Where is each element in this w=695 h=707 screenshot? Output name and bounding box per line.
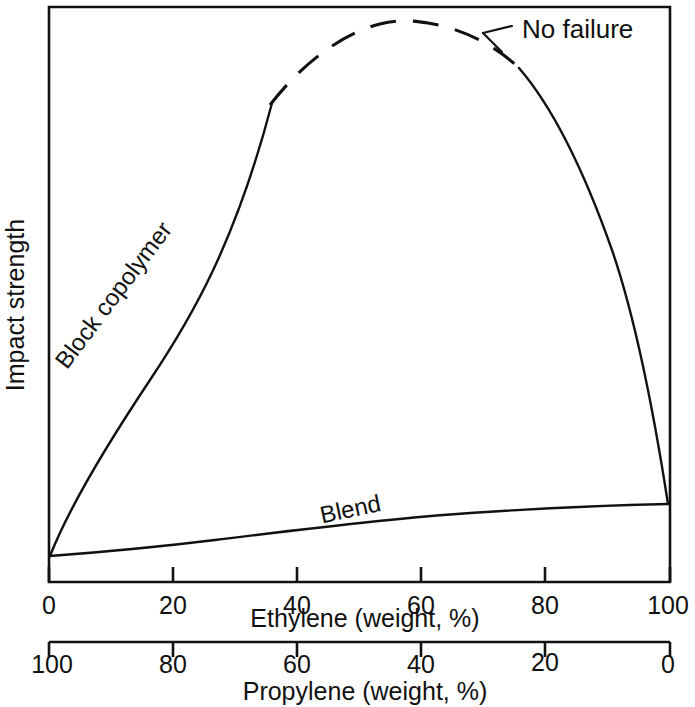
impact-strength-chart-figure: No failure Block copolymer Blend Impact …: [0, 0, 695, 707]
propylene-tick-label-20: 20: [531, 648, 559, 676]
propylene-tick-label-80: 80: [159, 650, 187, 678]
propylene-tick-label-0: 0: [661, 650, 675, 678]
no-failure-leader-line: [483, 26, 512, 52]
no-failure-annotation: No failure: [522, 14, 633, 44]
chart-canvas: No failure Block copolymer Blend Impact …: [0, 0, 695, 707]
ethylene-tick-label-100: 100: [647, 591, 689, 619]
ethylene-tick-label-80: 80: [531, 591, 559, 619]
leader-lower-stroke: [483, 33, 502, 52]
propylene-axis-title: Propylene (weight, %): [243, 677, 488, 705]
block-copolymer-series-label: Block copolymer: [49, 216, 177, 373]
propylene-tick-label-60: 60: [283, 650, 311, 678]
ethylene-tick-label-0: 0: [42, 591, 56, 619]
y-axis-title: Impact strength: [1, 219, 29, 391]
leader-upper-stroke: [483, 26, 512, 33]
propylene-tick-labels: 100 80 60 40 20 0: [31, 648, 675, 678]
propylene-axis: [49, 642, 670, 657]
ethylene-axis-title: Ethylene (weight, %): [250, 604, 479, 632]
propylene-tick-label-40: 40: [407, 650, 435, 678]
block-copolymer-curve-solid-right: [519, 68, 668, 504]
ethylene-tick-label-20: 20: [159, 591, 187, 619]
ethylene-axis-ticks: [49, 567, 670, 582]
propylene-tick-label-100: 100: [31, 650, 73, 678]
